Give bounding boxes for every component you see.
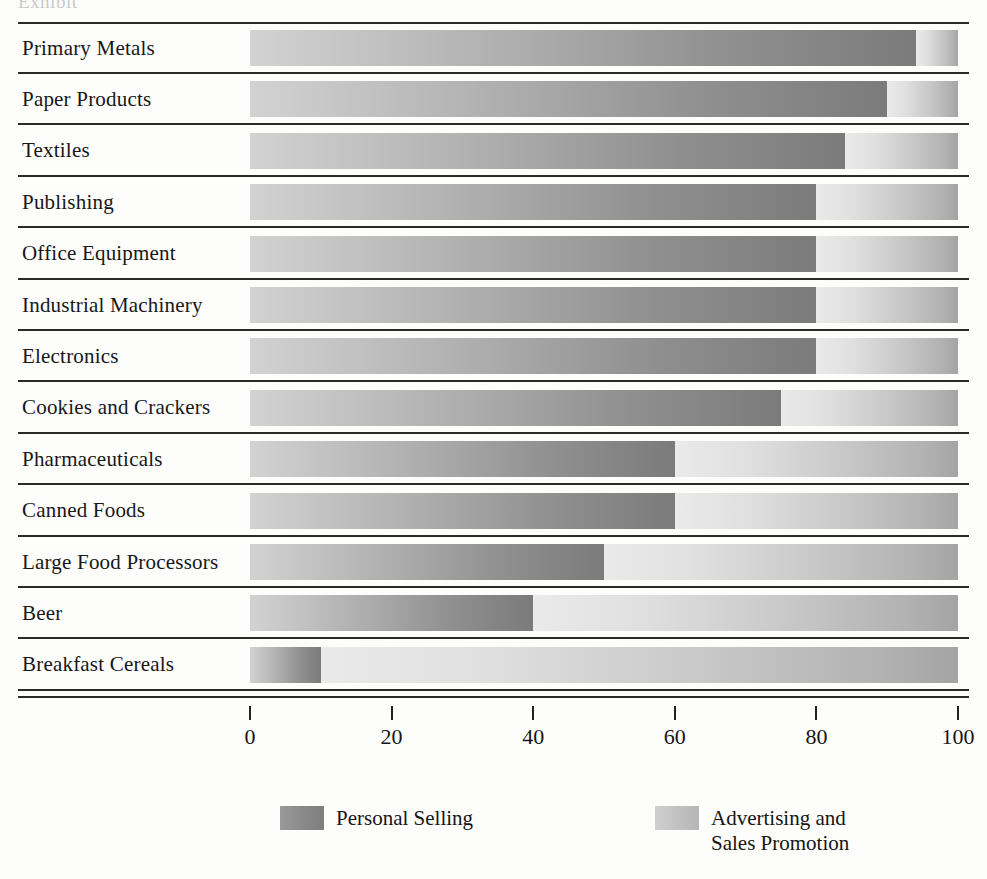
bar-segment-personal-selling[interactable] — [250, 441, 675, 477]
category-label: Publishing — [22, 178, 114, 226]
bar-track — [250, 287, 958, 323]
chart-row[interactable]: Publishing — [0, 178, 987, 226]
chart-row[interactable]: Industrial Machinery — [0, 281, 987, 329]
bar-segment-advertising[interactable] — [816, 338, 958, 374]
category-label: Beer — [22, 589, 62, 637]
legend-swatch-advertising-icon — [655, 806, 699, 830]
separator-rule — [18, 483, 969, 485]
bar-segment-advertising[interactable] — [675, 441, 958, 477]
separator-rule — [18, 380, 969, 382]
legend-label-line2: Sales Promotion — [711, 831, 849, 856]
bar-segment-personal-selling[interactable] — [250, 544, 604, 580]
bar-segment-personal-selling[interactable] — [250, 30, 916, 66]
chart-row[interactable]: Cookies and Crackers — [0, 384, 987, 432]
bar-track — [250, 184, 958, 220]
bar-segment-advertising[interactable] — [675, 493, 958, 529]
bar-segment-advertising[interactable] — [321, 647, 958, 683]
bar-track — [250, 544, 958, 580]
x-axis-tick — [249, 706, 251, 720]
x-axis-tick — [532, 706, 534, 720]
chart-row[interactable]: Textiles — [0, 127, 987, 175]
chart-row[interactable]: Primary Metals — [0, 24, 987, 72]
bar-segment-advertising[interactable] — [845, 133, 958, 169]
bar-segment-advertising[interactable] — [916, 30, 958, 66]
stacked-bar-chart: Primary MetalsPaper ProductsTextilesPubl… — [0, 0, 987, 879]
chart-row[interactable]: Beer — [0, 589, 987, 637]
separator-rule — [18, 689, 969, 691]
category-label: Electronics — [22, 332, 119, 380]
bar-segment-advertising[interactable] — [604, 544, 958, 580]
bar-segment-personal-selling[interactable] — [250, 338, 816, 374]
bar-track — [250, 30, 958, 66]
chart-row[interactable]: Office Equipment — [0, 230, 987, 278]
category-label: Canned Foods — [22, 487, 145, 535]
separator-rule — [18, 586, 969, 588]
category-label: Cookies and Crackers — [22, 384, 210, 432]
bar-segment-personal-selling[interactable] — [250, 595, 533, 631]
x-axis-tick — [957, 706, 959, 720]
bar-segment-personal-selling[interactable] — [250, 390, 781, 426]
chart-row[interactable]: Large Food Processors — [0, 538, 987, 586]
x-axis-tick — [815, 706, 817, 720]
separator-rule — [18, 637, 969, 639]
chart-row[interactable]: Canned Foods — [0, 487, 987, 535]
chart-row[interactable]: Paper Products — [0, 75, 987, 123]
bar-segment-personal-selling[interactable] — [250, 133, 845, 169]
legend-item[interactable]: Personal Selling — [280, 806, 473, 831]
chart-legend: Personal SellingAdvertising andSales Pro… — [0, 800, 987, 879]
bar-segment-advertising[interactable] — [781, 390, 958, 426]
bar-segment-advertising[interactable] — [887, 81, 958, 117]
bar-track — [250, 441, 958, 477]
bar-segment-personal-selling[interactable] — [250, 81, 887, 117]
x-axis-tick — [391, 706, 393, 720]
category-label: Pharmaceuticals — [22, 435, 163, 483]
category-label: Breakfast Cereals — [22, 641, 174, 689]
bar-segment-advertising[interactable] — [533, 595, 958, 631]
category-label: Paper Products — [22, 75, 151, 123]
category-label: Large Food Processors — [22, 538, 218, 586]
bar-segment-personal-selling[interactable] — [250, 287, 816, 323]
x-axis-tick-label: 60 — [664, 724, 686, 750]
category-label: Office Equipment — [22, 230, 176, 278]
separator-rule — [18, 123, 969, 125]
separator-rule — [18, 432, 969, 434]
category-label: Industrial Machinery — [22, 281, 203, 329]
x-axis-tick-label: 0 — [245, 724, 256, 750]
separator-rule — [18, 226, 969, 228]
chart-row[interactable]: Pharmaceuticals — [0, 435, 987, 483]
chart-row[interactable]: Electronics — [0, 332, 987, 380]
category-label: Primary Metals — [22, 24, 155, 72]
bar-segment-advertising[interactable] — [816, 184, 958, 220]
chart-row[interactable]: Breakfast Cereals — [0, 641, 987, 689]
legend-label-line1: Advertising and — [711, 806, 846, 830]
separator-rule — [18, 72, 969, 74]
bar-track — [250, 81, 958, 117]
separator-rule — [18, 175, 969, 177]
bar-track — [250, 493, 958, 529]
separator-rule — [18, 278, 969, 280]
bar-track — [250, 647, 958, 683]
x-axis-tick-label: 100 — [942, 724, 975, 750]
separator-rule — [18, 329, 969, 331]
legend-item[interactable]: Advertising andSales Promotion — [655, 806, 849, 856]
category-label: Textiles — [22, 127, 90, 175]
bar-track — [250, 390, 958, 426]
bar-segment-personal-selling[interactable] — [250, 184, 816, 220]
bar-segment-advertising[interactable] — [816, 287, 958, 323]
bar-track — [250, 338, 958, 374]
bar-track — [250, 236, 958, 272]
x-axis-line — [18, 696, 969, 698]
x-axis-tick-label: 40 — [522, 724, 544, 750]
legend-swatch-personal-selling-icon — [280, 806, 324, 830]
legend-label: Personal Selling — [336, 806, 473, 831]
separator-rule — [18, 535, 969, 537]
bar-segment-personal-selling[interactable] — [250, 236, 816, 272]
bar-track — [250, 595, 958, 631]
legend-label: Advertising andSales Promotion — [711, 806, 849, 856]
x-axis-tick — [674, 706, 676, 720]
bar-segment-personal-selling[interactable] — [250, 493, 675, 529]
bar-segment-personal-selling[interactable] — [250, 647, 321, 683]
x-axis-tick-label: 80 — [805, 724, 827, 750]
bar-segment-advertising[interactable] — [816, 236, 958, 272]
bar-track — [250, 133, 958, 169]
